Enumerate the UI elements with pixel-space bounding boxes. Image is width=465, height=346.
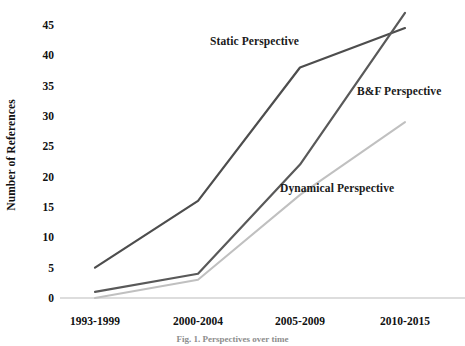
series-line-dynamical-perspective [95, 122, 405, 298]
series-label-bf-perspective: B&F Perspective [357, 85, 441, 97]
y-axis-title-text: Number of References [5, 99, 17, 210]
plot-area: Static Perspective B&F Perspective Dynam… [60, 0, 465, 310]
series-label-static-perspective: Static Perspective [210, 35, 299, 47]
y-tick-label: 15 [43, 201, 55, 213]
y-tick-label: 5 [48, 262, 54, 274]
x-tick-label: 2000-2004 [173, 315, 223, 327]
y-tick-label: 10 [43, 231, 55, 243]
y-tick-label: 0 [48, 292, 54, 304]
x-tick-label: 2010-2015 [380, 315, 430, 327]
y-tick-label: 20 [43, 171, 55, 183]
y-tick-label: 45 [43, 19, 55, 31]
y-axis-tick-labels: 454035302520151050 [22, 0, 60, 310]
y-axis-title: Number of References [0, 0, 22, 310]
series-line-static-perspective [95, 28, 405, 268]
x-axis-tick-labels: 1993-19992000-20042005-20092010-2015 [60, 310, 465, 332]
series-label-dynamical-perspective: Dynamical Perspective [280, 182, 394, 194]
line-chart-figure: Number of References 454035302520151050 … [0, 0, 465, 346]
y-tick-label: 35 [43, 80, 55, 92]
x-tick-label: 2005-2009 [275, 315, 325, 327]
x-tick-label: 1993-1999 [70, 315, 120, 327]
y-tick-label: 25 [43, 140, 55, 152]
y-tick-label: 30 [43, 110, 55, 122]
figure-caption: Fig. 1. Perspectives over time [0, 334, 465, 344]
series-line-b-f-perspective [95, 13, 405, 292]
y-tick-label: 40 [43, 49, 55, 61]
